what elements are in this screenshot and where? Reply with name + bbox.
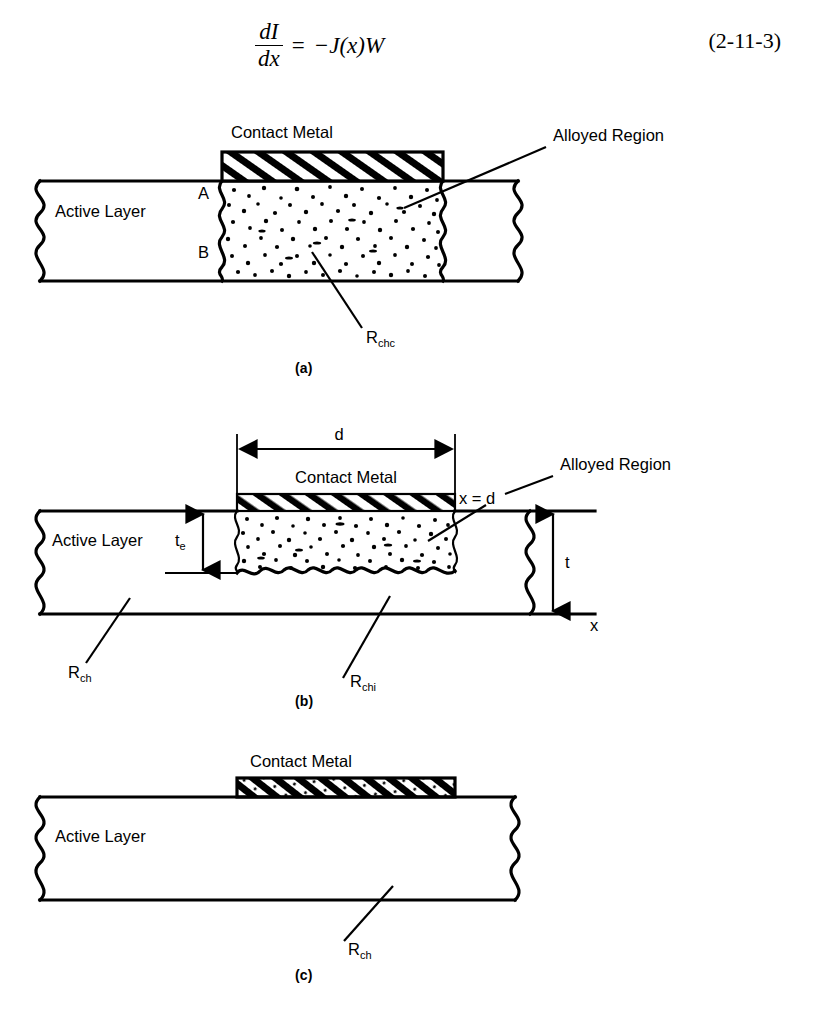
active-layer-slab-c (36, 797, 519, 900)
alloyed-region-leader-b (505, 476, 553, 494)
active-layer-label-a: Active Layer (55, 202, 146, 220)
contact-metal-block-a (222, 152, 443, 181)
active-layer-label-b: Active Layer (52, 531, 143, 549)
dimension-te-group: te (165, 511, 237, 573)
contact-metal-block-b (237, 494, 455, 511)
figure-b-caption: (b) (295, 693, 313, 709)
figure-c-drawing: Contact Metal Active Layer Rch (0, 745, 825, 995)
equals-sign: = (292, 33, 305, 59)
dimension-t-group: t (553, 514, 570, 611)
slab-left-break-c (36, 797, 44, 900)
fraction-denominator: dx (255, 47, 283, 71)
figure-c-caption: (c) (295, 967, 313, 983)
figure-a-caption: (a) (295, 360, 313, 376)
alloyed-stipple-b (241, 516, 452, 570)
figure-a: Contact Metal Alloyed Region Active Laye… (0, 112, 825, 362)
rchi-label-b: Rchi (350, 672, 376, 693)
figure-b-drawing: d Contact Metal (0, 428, 825, 698)
alloyed-left-wall-b (235, 511, 239, 573)
slab-right-break-b (526, 511, 534, 614)
axis-x-label: x (590, 616, 599, 634)
alloyed-region-label-b: Alloyed Region (560, 455, 671, 473)
point-a-label: A (198, 184, 209, 202)
alloyed-right-wall-b (453, 511, 457, 573)
rch-label-c: Rch (348, 940, 372, 961)
rch-leader-b (86, 598, 130, 663)
figure-c: Contact Metal Active Layer Rch (c) (0, 745, 825, 995)
active-layer-slab-a (36, 181, 522, 281)
slab-right-break-a (514, 181, 522, 281)
contact-metal-block-c (237, 778, 455, 797)
alloyed-left-wall-a (219, 181, 224, 281)
rchi-leader-b (343, 596, 390, 678)
equation-expression: dI dx = −J(x)W (255, 20, 384, 71)
active-layer-slab-b (36, 511, 595, 614)
alloyed-bottom-wave-b (237, 568, 455, 574)
point-b-label: B (198, 243, 209, 261)
slab-left-break-a (36, 181, 44, 281)
rch-label-b: Rch (68, 663, 92, 684)
fraction-numerator: dI (256, 20, 281, 44)
contact-metal-label-a: Contact Metal (231, 123, 333, 141)
slab-left-break-b (36, 511, 44, 614)
alloyed-region-b (235, 511, 457, 574)
rch-leader-c (344, 886, 393, 941)
derivative-fraction: dI dx (255, 20, 283, 71)
thickness-t-label: t (565, 553, 570, 571)
rchc-leader-a (312, 252, 362, 328)
slab-right-break-c (511, 797, 519, 900)
equation-block: dI dx = −J(x)W (2-11-3) (0, 14, 825, 84)
contact-metal-label-c: Contact Metal (250, 752, 352, 770)
alloyed-stipple-a (226, 185, 441, 278)
figure-b: d Contact Metal (0, 428, 825, 698)
rchc-label: Rchc (366, 328, 396, 349)
active-layer-label-c: Active Layer (55, 827, 146, 845)
alloyed-region-a (219, 181, 445, 281)
dimension-d-label: d (334, 425, 343, 443)
equation-number: (2-11-3) (709, 28, 782, 54)
equation-right-side: −J(x)W (314, 33, 384, 59)
figure-a-drawing: Contact Metal Alloyed Region Active Laye… (0, 112, 825, 362)
x-equals-d-label: x = d (459, 489, 495, 507)
page-canvas: dI dx = −J(x)W (2-11-3) (0, 0, 825, 1014)
thickness-te-label: te (175, 531, 186, 552)
alloyed-right-wall-a (440, 181, 445, 281)
alloyed-region-label-a: Alloyed Region (553, 126, 664, 144)
contact-metal-label-b: Contact Metal (295, 468, 397, 486)
